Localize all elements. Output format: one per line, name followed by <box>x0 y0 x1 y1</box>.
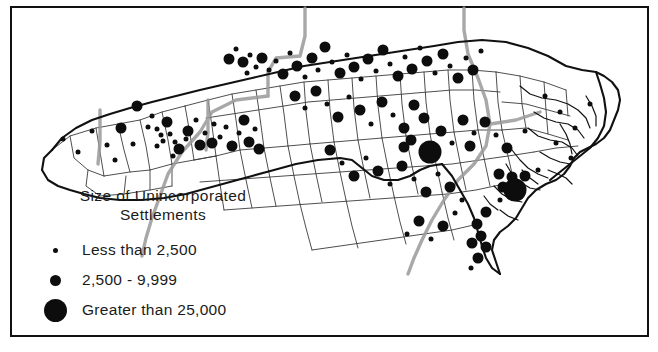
legend-entries: Less than 2,500 2,500 - 9,999 Greater th… <box>28 235 298 325</box>
legend-title-line-1: Size of Unincorporated <box>28 186 298 205</box>
map-legend: Size of Unincorporated Settlements Less … <box>28 186 298 325</box>
legend-entry-small: Less than 2,500 <box>28 235 298 265</box>
legend-title-line-2: Settlements <box>28 205 298 224</box>
legend-entry-label: Less than 2,500 <box>82 241 197 259</box>
map-page: Size of Unincorporated Settlements Less … <box>0 0 658 352</box>
legend-large-dot-icon <box>28 299 82 322</box>
legend-entry-label: Greater than 25,000 <box>82 301 226 319</box>
legend-medium-dot-icon <box>28 275 82 286</box>
legend-entry-large: Greater than 25,000 <box>28 295 298 325</box>
legend-title: Size of Unincorporated Settlements <box>28 186 298 224</box>
legend-entry-label: 2,500 - 9,999 <box>82 271 177 289</box>
legend-entry-medium: 2,500 - 9,999 <box>28 265 298 295</box>
legend-small-dot-icon <box>28 248 82 253</box>
